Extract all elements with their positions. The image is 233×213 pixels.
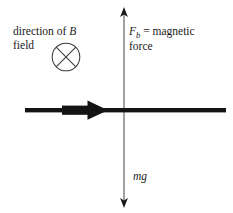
magnetic-force-label: Fb = magnetic force (129, 25, 195, 53)
b-field-symbol: B (69, 25, 76, 37)
physics-diagram: direction of B field Fb = magnetic force… (0, 0, 233, 213)
magnetic-force-line1: Fb = magnetic (129, 25, 195, 40)
arrow-shaft-thick (62, 106, 90, 115)
force-equals-text: = magnetic (140, 25, 194, 37)
vertical-axis (120, 7, 128, 208)
b-field-direction-label: direction of B field (13, 25, 76, 52)
b-field-label-line1: direction of B (13, 25, 76, 39)
weight-label: mg (133, 170, 147, 184)
current-direction-arrow (25, 101, 226, 120)
b-field-label-text: direction of (13, 25, 69, 37)
b-field-label-line2: field (13, 39, 76, 53)
magnetic-force-line2: force (129, 40, 195, 54)
rod-bar (25, 108, 226, 112)
force-symbol: F (129, 25, 136, 37)
arrowhead-right-icon (88, 101, 109, 120)
